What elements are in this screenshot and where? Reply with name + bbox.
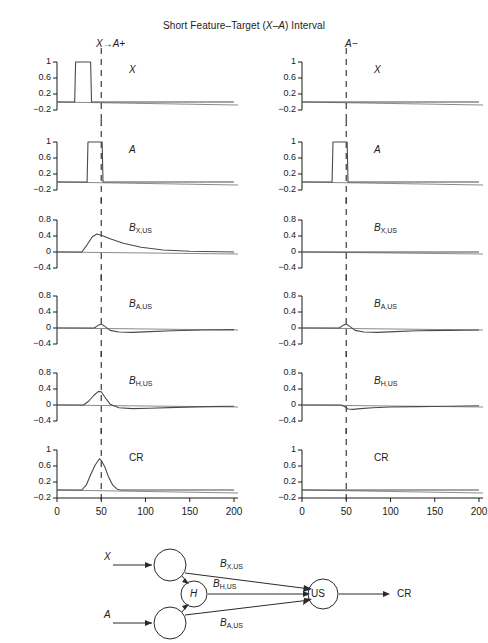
y-axis-tick-label: 0.6	[262, 152, 296, 162]
y-axis-tick-label: 0.8	[17, 290, 51, 300]
y-axis-tick-label: 0.6	[17, 152, 51, 162]
diagram-weight-a-us-sub: A,US	[227, 622, 243, 629]
y-axis-tick-label: 0.2	[262, 476, 296, 486]
y-axis-tick-label: −0.2	[17, 184, 51, 194]
y-axis-tick-label: −0.4	[17, 338, 51, 348]
arrow-input-x-head	[145, 562, 152, 568]
y-axis-tick-label: 1	[17, 444, 51, 454]
zero-baseline	[57, 252, 238, 254]
node-x-circle	[154, 549, 186, 581]
diagram-label-input-x: X	[104, 551, 111, 562]
panel-caption-X: X	[374, 64, 381, 75]
y-axis-tick-label: 0.6	[17, 72, 51, 82]
y-axis-tick-label: −0.4	[17, 415, 51, 425]
diagram-label-input-a: A	[104, 609, 111, 620]
diagram-weight-x-us-base: B	[220, 558, 227, 569]
panel-caption-BHUS: BH,US	[374, 375, 397, 386]
y-axis-tick-label: 0.2	[17, 476, 51, 486]
y-axis-tick-label: 1	[262, 444, 296, 454]
panel-caption-CR: CR	[129, 452, 143, 463]
data-trace	[302, 324, 479, 332]
y-axis-tick-label: −0.4	[262, 338, 296, 348]
data-trace	[302, 142, 479, 182]
y-axis-tick-label: 0.2	[17, 88, 51, 98]
panel-caption-BXUS: BX,US	[374, 222, 397, 233]
diagram-weight-h-us: BH,US	[213, 578, 236, 589]
y-axis-tick-label: 0.6	[262, 72, 296, 82]
diagram-weight-a-us: BA,US	[220, 617, 243, 628]
y-axis-tick-label: −0.4	[17, 262, 51, 272]
panel-caption-CR: CR	[374, 452, 388, 463]
y-axis-tick-label: −0.2	[262, 492, 296, 502]
y-axis-tick-label: 0	[262, 246, 296, 256]
y-axis-tick-label: 0.4	[262, 383, 296, 393]
panel-caption-X: X	[129, 64, 136, 75]
diagram-weight-a-us-base: B	[220, 617, 227, 628]
y-axis-tick-label: 0.4	[17, 306, 51, 316]
diagram-weight-h-us-base: B	[213, 578, 220, 589]
y-axis-tick-label: 0	[17, 322, 51, 332]
panel-caption-BXUS: BX,US	[129, 222, 152, 233]
data-trace	[57, 234, 234, 252]
node-a-circle	[154, 607, 186, 639]
x-axis-tick-label: 100	[376, 506, 406, 517]
diagram-label-cr-text: CR	[397, 588, 411, 599]
y-axis-tick-label: 0.4	[17, 383, 51, 393]
diagram-label-us-text: US	[311, 588, 325, 599]
x-axis-tick-label: 50	[331, 506, 361, 517]
edge-x-to-h-head	[182, 578, 189, 584]
y-axis-tick-label: 0.8	[262, 367, 296, 377]
diagram-label-us: US	[311, 588, 325, 599]
y-axis-tick-label: 0.2	[262, 168, 296, 178]
y-axis-tick-label: 0.6	[17, 460, 51, 470]
data-trace	[57, 142, 234, 182]
y-axis-tick-label: 0.8	[262, 290, 296, 300]
x-axis-tick-label: 150	[420, 506, 450, 517]
y-axis-tick-label: −0.2	[17, 104, 51, 114]
x-axis-tick-label: 100	[131, 506, 161, 517]
data-trace	[57, 62, 234, 102]
panel-caption-BAUS: BA,US	[374, 298, 397, 309]
figure-panel: Short Feature–Target (X–A) Interval X→A+…	[0, 0, 488, 643]
y-axis-tick-label: 0.2	[17, 168, 51, 178]
network-diagram	[0, 533, 488, 643]
y-axis-tick-label: −0.4	[262, 415, 296, 425]
y-axis-tick-label: 0.2	[262, 88, 296, 98]
y-axis-tick-label: 0.6	[262, 460, 296, 470]
y-axis-tick-label: 0.4	[262, 306, 296, 316]
y-axis-tick-label: −0.2	[17, 492, 51, 502]
x-axis-tick-label: 0	[287, 506, 317, 517]
y-axis-tick-label: 0	[262, 399, 296, 409]
y-axis-tick-label: −0.2	[262, 104, 296, 114]
panel-caption-A: A	[129, 144, 136, 155]
diagram-weight-x-us-sub: X,US	[227, 563, 243, 570]
y-axis-tick-label: 0.8	[17, 367, 51, 377]
data-trace	[57, 459, 234, 490]
edge-a-to-h-head	[182, 604, 189, 610]
y-axis-tick-label: 0.4	[17, 230, 51, 240]
y-axis-tick-label: 0	[262, 322, 296, 332]
y-axis-tick-label: −0.2	[262, 184, 296, 194]
x-axis-tick-label: 200	[219, 506, 249, 517]
arrow-input-a-head	[145, 620, 152, 626]
plot-grid	[0, 0, 488, 540]
y-axis-tick-label: 1	[17, 136, 51, 146]
diagram-weight-h-us-sub: H,US	[220, 583, 237, 590]
data-trace	[57, 324, 234, 332]
x-axis-tick-label: 50	[86, 506, 116, 517]
y-axis-tick-label: 0	[17, 399, 51, 409]
x-axis-tick-label: 0	[42, 506, 72, 517]
y-axis-tick-label: 1	[17, 56, 51, 66]
y-axis-tick-label: 1	[262, 136, 296, 146]
panel-caption-A: A	[374, 144, 381, 155]
y-axis-tick-label: 0.8	[262, 214, 296, 224]
edge-us-to-cr-head	[383, 591, 390, 597]
y-axis-tick-label: 0.4	[262, 230, 296, 240]
diagram-label-hidden: H	[190, 588, 197, 599]
diagram-label-cr: CR	[397, 588, 411, 599]
panel-caption-BAUS: BA,US	[129, 298, 152, 309]
y-axis-tick-label: 0	[17, 246, 51, 256]
diagram-weight-x-us: BX,US	[220, 558, 243, 569]
y-axis-tick-label: 1	[262, 56, 296, 66]
y-axis-tick-label: 0.8	[17, 214, 51, 224]
